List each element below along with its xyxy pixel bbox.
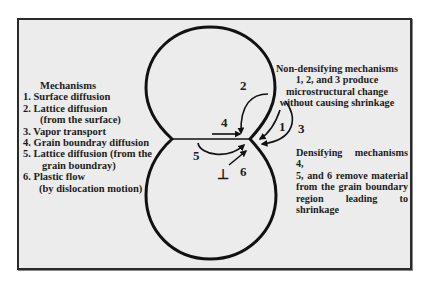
densifying-line-3: from the grain boundary [296, 181, 408, 192]
label-mechanism-6: 6 [240, 165, 247, 178]
non-densifying-note: Non-densifying mechanisms 1, 2, and 3 pr… [272, 63, 402, 109]
label-mechanism-2: 2 [240, 79, 247, 92]
densifying-note: Densifying mechanisms 4, 5, and 6 remove… [296, 147, 408, 215]
dislocation-icon: ⊥ [217, 168, 229, 181]
non-densifying-line-4: without causing shrinkage [272, 97, 402, 108]
non-densifying-line-3: microstructural change [272, 86, 402, 97]
non-densifying-line-1: Non-densifying mechanisms [272, 63, 402, 74]
densifying-line-2: 5, and 6 remove material [296, 170, 408, 181]
legend-item-5: 5. Lattice diffusion (from the [23, 148, 173, 159]
legend-item-5-detail: grain boundray) [23, 160, 173, 171]
legend-item-4: 4. Grain boundray diffusion [23, 137, 173, 148]
legend-item-2: 2. Lattice diffusion [23, 103, 173, 114]
label-mechanism-3: 3 [298, 122, 305, 135]
label-mechanism-5: 5 [193, 149, 200, 162]
label-mechanism-1: 1 [279, 120, 286, 133]
legend-item-6: 6. Plastic flow [23, 171, 173, 182]
legend-item-6-detail: (by dislocation motion) [23, 183, 173, 194]
densifying-line-1: Densifying mechanisms 4, [296, 147, 408, 170]
non-densifying-line-2: 1, 2, and 3 produce [272, 74, 402, 85]
mechanisms-legend: Mechanisms 1. Surface diffusion 2. Latti… [23, 80, 173, 194]
legend-item-2-detail: (from the surface) [23, 114, 173, 125]
legend-item-1: 1. Surface diffusion [23, 91, 173, 102]
arrow-mechanism-2 [241, 94, 268, 133]
arrow-mechanism-5 [198, 143, 244, 154]
label-mechanism-4: 4 [221, 116, 228, 129]
legend-item-3: 3. Vapor transport [23, 126, 173, 137]
densifying-line-4: region leading to shrinkage [296, 193, 408, 216]
legend-title: Mechanisms [23, 80, 173, 91]
